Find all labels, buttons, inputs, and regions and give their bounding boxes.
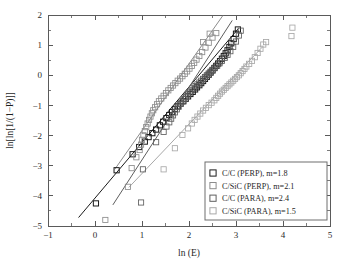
data-point xyxy=(172,146,177,151)
data-point xyxy=(93,201,98,206)
x-tick-label: 1 xyxy=(140,230,145,240)
y-tick-label: 2 xyxy=(38,10,43,20)
y-tick-label: −4 xyxy=(32,191,42,201)
y-tick-label: −3 xyxy=(32,161,42,171)
data-point xyxy=(227,82,232,87)
weibull-plot-figure: −1012345−5−4−3−2−1012ln (E)ln[ln[1/(1−P)… xyxy=(0,0,348,267)
legend-label: C/C (PARA), m=2.4 xyxy=(222,194,289,203)
legend: C/C (PERP), m=1.8C/SiC (PERP), m=2.1C/C … xyxy=(205,162,327,220)
plot-canvas: −1012345−5−4−3−2−1012ln (E)ln[ln[1/(1−P)… xyxy=(0,0,348,267)
x-tick-label: −1 xyxy=(43,230,53,240)
y-tick-label: 1 xyxy=(38,40,43,50)
data-point xyxy=(229,80,234,85)
legend-label: C/SiC (PARA), m=1.5 xyxy=(222,207,296,216)
data-point xyxy=(161,167,166,172)
x-axis-title: ln (E) xyxy=(178,248,200,259)
y-tick-label: −5 xyxy=(32,221,42,231)
data-point xyxy=(289,34,294,39)
data-point xyxy=(290,25,295,30)
y-axis-title: ln[ln[1/(1−P)]] xyxy=(5,92,16,149)
data-point xyxy=(103,217,108,222)
legend-label: C/SiC (PERP), m=2.1 xyxy=(222,182,294,191)
x-tick-label: 3 xyxy=(234,230,239,240)
y-tick-label: −1 xyxy=(32,101,42,111)
x-tick-label: 5 xyxy=(328,230,333,240)
data-point xyxy=(138,200,143,205)
x-tick-label: 2 xyxy=(187,230,192,240)
data-point xyxy=(129,166,134,171)
x-tick-label: 4 xyxy=(281,230,286,240)
y-tick-label: 0 xyxy=(38,70,43,80)
y-tick-label: −2 xyxy=(32,131,42,141)
legend-label: C/C (PERP), m=1.8 xyxy=(222,169,288,178)
x-tick-label: 0 xyxy=(93,230,98,240)
